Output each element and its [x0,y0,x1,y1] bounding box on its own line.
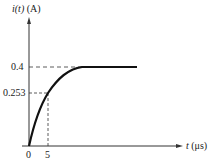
current-curve [29,67,137,146]
y-axis-arrow-icon [27,17,31,24]
chart-canvas [0,0,214,163]
y-axis-label: i(t) (A) [12,4,41,14]
tick-y-04: 0.4 [11,62,24,72]
tick-x-5: 5 [45,150,50,160]
x-axis-var: t [186,140,189,151]
x-axis-label: t (μs) [186,141,207,151]
x-axis-unit: (μs) [191,140,207,151]
x-axis-arrow-icon [176,144,183,148]
y-axis-fn: i(t) [12,3,24,14]
tick-x-0: 0 [26,150,31,160]
y-axis-unit: (A) [27,3,41,14]
tick-y-0253: 0.253 [3,88,26,98]
